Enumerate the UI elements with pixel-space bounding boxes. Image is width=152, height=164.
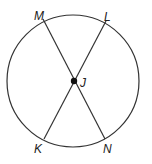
label-m: M xyxy=(34,9,44,23)
label-j: J xyxy=(79,76,87,90)
label-n: N xyxy=(103,142,112,156)
label-l: L xyxy=(104,10,111,24)
circle-diagram: M L J K N xyxy=(0,0,152,164)
center-point-j xyxy=(71,78,77,84)
label-k: K xyxy=(34,142,43,156)
